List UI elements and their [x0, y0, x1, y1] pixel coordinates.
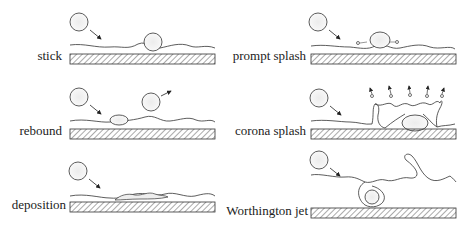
panel-rebound: [70, 88, 215, 139]
incoming-droplet: [309, 13, 327, 31]
deposited-splat: [115, 193, 168, 200]
substrate: [70, 202, 215, 212]
splashing-droplet: [370, 32, 390, 48]
corona-rim: [375, 101, 440, 106]
flattened-droplet: [110, 115, 128, 125]
label-rebound: rebound: [0, 123, 62, 139]
liquid-film: [70, 43, 215, 48]
incoming-droplet: [70, 13, 88, 31]
liquid-film: [70, 116, 215, 122]
label-deposition: deposition: [0, 197, 66, 213]
rebound-arrow-icon: [161, 91, 171, 96]
secondary-droplet: [357, 42, 360, 45]
incoming-droplet: [69, 162, 87, 180]
panel-stick: [70, 13, 215, 64]
label-worthington-jet: Worthington jet: [220, 203, 308, 219]
incoming-droplet: [310, 151, 328, 169]
impact-arrow-icon: [329, 30, 340, 39]
incoming-droplet: [310, 89, 328, 107]
label-prompt-splash: prompt splash: [220, 48, 306, 64]
panel-deposition: [69, 162, 215, 212]
substrate: [70, 54, 215, 64]
stuck-droplet: [144, 33, 162, 51]
substrate: [70, 129, 215, 139]
incoming-droplet: [70, 88, 88, 106]
corona-sheet: [436, 101, 455, 127]
substrate: [311, 129, 456, 139]
impact-arrow-icon: [89, 179, 100, 188]
panel-worthington-jet: [310, 151, 456, 218]
impact-arrow-icon: [90, 30, 101, 39]
corona-sheet: [372, 104, 385, 128]
entrapped-droplet: [365, 190, 379, 204]
impact-arrow-icon: [90, 105, 101, 114]
substrate: [311, 208, 456, 218]
panel-corona-splash: [310, 86, 456, 139]
droplet-impact-diagram: [0, 0, 472, 230]
liquid-film: [311, 154, 456, 182]
secondary-droplet: [396, 41, 399, 44]
substrate: [311, 54, 456, 64]
liquid-film: [311, 120, 372, 124]
label-corona-splash: corona splash: [220, 123, 306, 139]
impact-arrow-icon: [330, 106, 341, 115]
label-stick: stick: [0, 48, 62, 64]
ejected-droplets: [370, 86, 444, 98]
panel-prompt-splash: [309, 13, 456, 64]
rebounding-droplet: [142, 93, 160, 111]
impact-arrow-icon: [330, 168, 340, 176]
